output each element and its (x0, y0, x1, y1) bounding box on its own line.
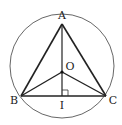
segment-ab (21, 24, 62, 96)
point-o-dot (60, 70, 63, 73)
label-b: B (10, 94, 18, 107)
geometry-figure: A B C O I (0, 0, 122, 125)
diagram-canvas: A B C O I (0, 0, 122, 125)
label-c: C (109, 94, 117, 107)
label-a: A (57, 9, 67, 22)
label-i: I (60, 99, 64, 112)
label-o: O (65, 60, 74, 73)
right-angle-mark (62, 90, 68, 96)
